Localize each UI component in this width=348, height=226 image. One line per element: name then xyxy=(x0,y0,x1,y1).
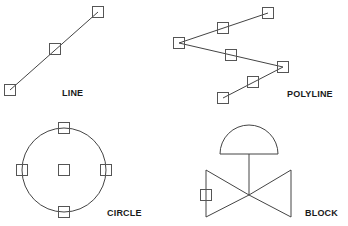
circle-shape[interactable] xyxy=(22,128,106,212)
grip-handle[interactable] xyxy=(50,44,61,55)
block-label: BLOCK xyxy=(305,208,338,218)
actuator-dome xyxy=(220,125,278,154)
valve-block-object[interactable] xyxy=(201,125,292,217)
line-segment[interactable] xyxy=(10,12,98,90)
polyline-path[interactable] xyxy=(179,13,283,98)
valve-right-triangle xyxy=(249,170,291,217)
line-object[interactable] xyxy=(5,7,104,96)
polyline-label: POLYLINE xyxy=(287,89,333,99)
cad-grips-diagram: LINE POLYLINE CIRCLE BLOCK xyxy=(0,0,348,226)
valve-left-triangle xyxy=(206,170,249,217)
line-label: LINE xyxy=(62,88,83,98)
polyline-object[interactable] xyxy=(174,8,289,104)
circle-label: CIRCLE xyxy=(107,208,142,218)
grip-handle[interactable] xyxy=(59,165,70,176)
circle-object[interactable] xyxy=(17,123,112,218)
